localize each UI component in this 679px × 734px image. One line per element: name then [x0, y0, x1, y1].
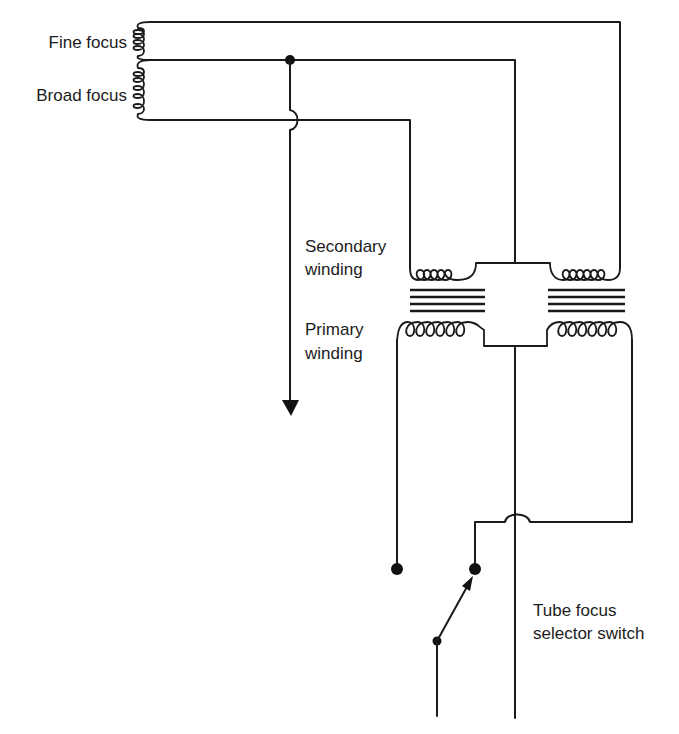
switch-arrow-icon — [462, 576, 473, 591]
primary-winding-right — [547, 322, 632, 346]
label-switch-1: Tube focus — [533, 601, 616, 620]
secondary-winding-right — [550, 263, 620, 280]
primary-right-lead — [475, 340, 632, 568]
transformer-core-right — [548, 290, 625, 311]
label-switch-2: selector switch — [533, 624, 644, 643]
arrow-down-icon — [282, 400, 299, 416]
common-lead — [150, 60, 515, 263]
label-secondary-winding-2: winding — [304, 260, 363, 279]
fine-focus-filament-coil — [134, 22, 151, 60]
transformer-core-left — [410, 290, 485, 311]
switch-contact-fine[interactable] — [469, 563, 481, 575]
cathode-return-lead — [290, 60, 298, 402]
label-fine-focus: Fine focus — [49, 33, 127, 52]
label-secondary-winding-1: Secondary — [305, 237, 387, 256]
primary-winding-left — [397, 322, 484, 346]
broad-focus-filament-coil — [134, 60, 151, 120]
fine-focus-lead — [150, 22, 620, 268]
switch-lever[interactable] — [437, 585, 468, 641]
switch-contact-broad[interactable] — [391, 563, 403, 575]
focus-circuit-diagram: Fine focus Broad focus Secondary winding… — [0, 0, 679, 734]
label-primary-winding-1: Primary — [305, 320, 364, 339]
secondary-winding-left — [410, 263, 476, 280]
label-primary-winding-2: winding — [304, 344, 363, 363]
label-broad-focus: Broad focus — [36, 86, 127, 105]
